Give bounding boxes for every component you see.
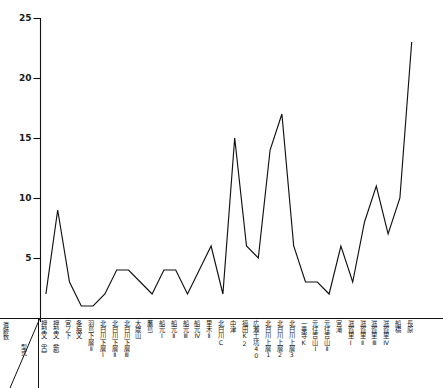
x-category-cell: 鷹島 [144, 318, 156, 388]
x-category-cell: 長原 [404, 318, 416, 388]
x-category-cell: 船元Ⅳ [191, 318, 203, 388]
x-category-cell: 北白川下層Ⅰ [97, 318, 109, 388]
x-category-cell: 船元Ⅰ [156, 318, 168, 388]
x-category-cell: 里木Ⅱ [203, 318, 215, 388]
x-category-label: 北白川上層1 [264, 318, 271, 388]
x-category-cell: 船元Ⅲ [180, 318, 192, 388]
x-category-label: 北白川下層Ⅱ [111, 318, 118, 388]
x-category-label: 広瀬土坑40 [253, 318, 260, 388]
x-category-label: 里木Ⅱ [205, 318, 212, 388]
y-tick-label: 15 [8, 134, 32, 143]
x-category-label: 北白川下層Ⅰ [99, 318, 106, 388]
x-category-label: 宮ノ下 [64, 318, 71, 388]
x-category-cell: 船橋 [392, 318, 404, 388]
x-category-label: 押型文（古） [40, 318, 47, 388]
category-label-row: 遺跡数 型式 押型文（古）押型文（新）宮ノ下条痕文羽島下層Ⅱ北白川下層Ⅰ北白川下… [0, 318, 416, 388]
x-category-cell: 船元Ⅱ [168, 318, 180, 388]
x-category-cell: 一乗寺K [298, 318, 310, 388]
x-category-label: 北白川下層Ⅲ [123, 318, 130, 388]
x-axis-label-band: 遺跡数 型式 押型文（古）押型文（新）宮ノ下条痕文羽島下層Ⅱ北白川下層Ⅰ北白川下… [0, 318, 443, 388]
x-category-cell: 北白川下層Ⅱ [109, 318, 121, 388]
x-category-label: 北白川上層2 [276, 318, 283, 388]
x-category-cell: 元住吉山Ⅰ [309, 318, 321, 388]
y-axis-title: 遺跡数 [2, 322, 8, 340]
x-category-label: 船元Ⅲ [182, 318, 189, 388]
line-chart-svg [0, 0, 443, 330]
x-category-label: 鷹島 [146, 318, 153, 388]
chart-figure: 510152025 遺跡数 型式 押型文（古）押型文（新）宮ノ下条痕文羽島下層Ⅱ… [0, 0, 443, 388]
x-category-label: 船橋 [394, 318, 401, 388]
x-category-cell: 北白川下層Ⅲ [121, 318, 133, 388]
x-category-label: 滋賀里Ⅳ [382, 318, 389, 388]
y-tick-label: 10 [8, 194, 32, 203]
axis-group [34, 18, 41, 322]
x-category-label: 宮滝 [335, 318, 342, 388]
x-category-cell: 羽島下層Ⅱ [85, 318, 97, 388]
x-category-cell: 宮滝 [333, 318, 345, 388]
x-category-label: 船元Ⅱ [170, 318, 177, 388]
plot-area: 510152025 [0, 0, 443, 330]
axis-corner-cell: 遺跡数 型式 [0, 318, 38, 388]
x-category-label: 押型文（新） [52, 318, 59, 388]
x-category-label: 大歳山 [135, 318, 142, 388]
x-category-cell: 滋賀里Ⅲ [368, 318, 380, 388]
x-category-label: 滋賀里Ⅰ [347, 318, 354, 388]
x-category-label: 元住吉山Ⅱ [323, 318, 330, 388]
x-category-cell: 滋賀里Ⅱ [357, 318, 369, 388]
x-category-cell: 福田K2 [239, 318, 251, 388]
x-category-label: 中津 [229, 318, 236, 388]
x-category-label: 船元Ⅰ [158, 318, 165, 388]
x-category-label: 滋賀里Ⅲ [371, 318, 378, 388]
x-category-cell: 北白川上層3 [286, 318, 298, 388]
x-category-label: 羽島下層Ⅱ [87, 318, 94, 388]
x-category-label: 一乗寺K [300, 318, 307, 388]
x-category-label: 滋賀里Ⅱ [359, 318, 366, 388]
x-category-label: 北白川上層3 [288, 318, 295, 388]
x-category-cell: 滋賀里Ⅰ [345, 318, 357, 388]
x-category-cell: 北白川上層1 [262, 318, 274, 388]
x-axis-title: 型式 [20, 344, 26, 356]
y-tick-label: 5 [8, 254, 32, 263]
x-category-label: 元住吉山Ⅰ [312, 318, 319, 388]
x-category-cell: 元住吉山Ⅱ [321, 318, 333, 388]
x-category-label: 福田K2 [241, 318, 248, 388]
x-category-cell: 広瀬土坑40 [250, 318, 262, 388]
x-category-cell: 押型文（古） [38, 318, 50, 388]
y-tick-marks [34, 19, 41, 259]
x-category-label: 北白川C [217, 318, 224, 388]
x-category-label: 条痕文 [76, 318, 83, 388]
x-category-cell: 大歳山 [132, 318, 144, 388]
series-line [46, 42, 412, 306]
data-series-group [46, 42, 412, 306]
x-category-cell: 北白川C [215, 318, 227, 388]
x-category-cell: 北白川上層2 [274, 318, 286, 388]
x-category-label: 船元Ⅳ [194, 318, 201, 388]
x-category-cell: 中津 [227, 318, 239, 388]
x-category-cell: 宮ノ下 [62, 318, 74, 388]
x-category-cell: 条痕文 [73, 318, 85, 388]
y-tick-label: 25 [8, 14, 32, 23]
x-category-cell: 押型文（新） [50, 318, 62, 388]
x-category-cell: 滋賀里Ⅳ [380, 318, 392, 388]
x-category-label: 長原 [406, 318, 413, 388]
y-tick-label: 20 [8, 74, 32, 83]
